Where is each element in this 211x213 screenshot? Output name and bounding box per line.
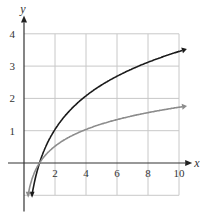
curve-gray-curve [28, 107, 182, 195]
axes [8, 15, 192, 211]
x-tick-label: 2 [52, 167, 58, 179]
y-tick-label: 1 [10, 125, 16, 137]
y-tick-label: 2 [10, 92, 16, 104]
y-axis-label: y [19, 2, 26, 16]
log-graph: 2468101234xy [0, 0, 211, 213]
x-tick-label: 10 [174, 167, 186, 179]
tick-labels: 2468101234xy [10, 2, 201, 179]
x-tick-label: 4 [83, 167, 89, 179]
x-tick-label: 6 [114, 167, 120, 179]
curves [26, 48, 187, 198]
curve-start-arrow-icon [26, 192, 31, 198]
y-tick-label: 3 [10, 60, 16, 72]
y-axis-arrow-icon [21, 15, 27, 22]
x-axis-arrow-icon [185, 160, 192, 166]
curve-arrow-icon [182, 104, 187, 110]
grid [24, 34, 179, 196]
x-tick-label: 8 [145, 167, 151, 179]
x-axis-label: x [193, 156, 200, 170]
y-tick-label: 4 [10, 28, 16, 40]
